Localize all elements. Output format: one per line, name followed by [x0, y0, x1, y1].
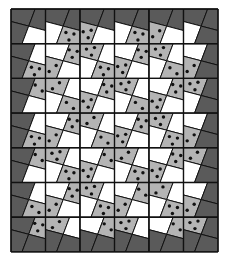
tile-cell-r5-c1 [46, 182, 80, 217]
dot-marker [90, 53, 93, 56]
dot-marker [175, 72, 178, 75]
dot-marker [123, 203, 126, 206]
dot-marker [89, 29, 92, 32]
tile-cell-r6-c2 [80, 217, 114, 252]
dot-marker [105, 90, 108, 93]
dot-marker [106, 141, 109, 144]
dot-marker [185, 70, 188, 73]
tile-cell-r0-c1 [46, 9, 80, 44]
tile-cell-r4-c3 [115, 148, 149, 183]
dot-marker [193, 227, 196, 230]
tile-cell-r1-c1 [46, 44, 80, 79]
dot-marker [103, 222, 106, 225]
dot-marker [81, 99, 84, 102]
tile-cell-r5-c5 [183, 182, 217, 217]
dot-marker [86, 36, 89, 39]
dot-marker [76, 119, 79, 122]
dot-marker [30, 135, 33, 138]
dot-marker [140, 56, 143, 59]
dot-marker [141, 107, 144, 110]
dot-marker [33, 142, 36, 145]
dot-marker [179, 154, 182, 157]
tile-cell-r6-c1 [46, 217, 80, 252]
dot-marker [76, 50, 79, 53]
dot-marker [116, 209, 119, 212]
dot-marker [81, 169, 84, 172]
dot-marker [89, 167, 92, 170]
dot-marker [168, 135, 171, 138]
dot-marker [145, 119, 148, 122]
dot-marker [136, 38, 139, 41]
dot-marker [124, 63, 127, 66]
tile-cell-r3-c5 [183, 113, 217, 148]
dot-marker [192, 203, 195, 206]
dot-marker [38, 67, 41, 70]
dot-marker [141, 171, 144, 174]
dot-marker [171, 83, 174, 86]
tile-cell-r5-c2 [80, 182, 114, 217]
dot-marker [133, 170, 136, 173]
dot-marker [71, 56, 74, 59]
dot-marker [154, 117, 157, 120]
dot-marker [38, 136, 41, 139]
dot-marker [99, 66, 102, 69]
dot-marker [93, 46, 96, 49]
dot-marker [137, 48, 140, 51]
tile-cell-r3-c0 [11, 113, 45, 148]
dot-marker [51, 226, 54, 229]
tile-cell-r2-c3 [115, 78, 149, 113]
dot-marker [47, 70, 50, 73]
dot-marker [119, 82, 122, 85]
dot-marker [196, 81, 199, 84]
tile-cell-r5-c3 [115, 182, 149, 217]
dot-marker [68, 187, 71, 190]
tile-cell-r4-c2 [80, 148, 114, 183]
tile-cell-r0-c5 [183, 9, 217, 44]
tile-cell-r1-c2 [80, 44, 114, 79]
dot-marker [155, 105, 158, 108]
dot-marker [185, 209, 188, 212]
dot-marker [51, 87, 54, 90]
dot-marker [158, 29, 161, 32]
tile-cell-r1-c5 [183, 44, 217, 79]
dot-marker [92, 116, 95, 119]
dot-marker [65, 101, 68, 104]
dot-marker [72, 107, 75, 110]
dot-marker [120, 156, 123, 159]
dot-marker [93, 185, 96, 188]
dot-marker [85, 122, 88, 125]
dot-marker [133, 31, 136, 34]
tile-cell-r4-c1 [46, 148, 80, 183]
dot-marker [58, 150, 61, 153]
dot-marker [196, 219, 199, 222]
dot-marker [30, 66, 33, 69]
dot-marker [188, 82, 191, 85]
dot-marker [34, 83, 37, 86]
dot-marker [188, 221, 191, 224]
dot-marker [176, 136, 179, 139]
dot-marker [72, 171, 75, 174]
tile-cell-r2-c5 [183, 78, 217, 113]
dot-marker [99, 135, 102, 138]
dot-marker [124, 227, 127, 230]
dot-marker [41, 159, 44, 162]
dot-marker [90, 192, 93, 195]
tile-cell-r5-c0 [11, 182, 45, 217]
dot-marker [67, 177, 70, 180]
dot-marker [174, 90, 177, 93]
dot-marker [119, 221, 122, 224]
tile-cell-r0-c3 [115, 9, 149, 44]
dot-marker [196, 150, 199, 153]
dot-marker [99, 204, 102, 207]
dot-marker [64, 170, 67, 173]
dot-marker [185, 139, 188, 142]
dot-marker [154, 191, 157, 194]
dot-marker [58, 220, 61, 223]
dot-marker [151, 35, 154, 38]
tile-cell-r0-c2 [80, 9, 114, 44]
dot-marker [171, 142, 174, 145]
dot-marker [85, 47, 88, 50]
dot-marker [154, 47, 157, 50]
dot-marker [127, 150, 130, 153]
dot-marker [116, 134, 119, 137]
